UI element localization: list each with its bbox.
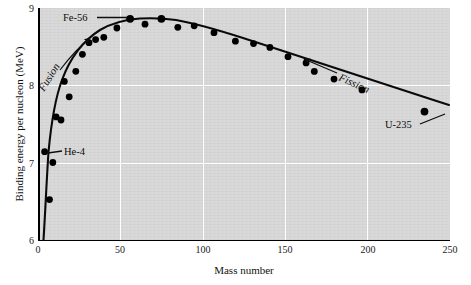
- y-tick-label: 8: [29, 80, 34, 91]
- gridline-vertical: [285, 8, 286, 240]
- y-tick-label: 7: [29, 158, 34, 169]
- gridline-vertical: [367, 8, 368, 240]
- x-tick-label: 200: [361, 244, 376, 255]
- x-tick-label: 50: [115, 244, 125, 255]
- y-tick-label: 9: [29, 3, 34, 14]
- gridline-horizontal: [38, 85, 450, 86]
- plot-area: [38, 8, 450, 240]
- x-axis-line: [38, 240, 450, 241]
- x-tick-label: 250: [443, 244, 458, 255]
- gridline-vertical: [120, 8, 121, 240]
- binding-energy-chart-figure: 9 8 7 6 0 50 100 150 200 250 Mass number…: [0, 0, 471, 285]
- y-tick-label: 6: [29, 235, 34, 246]
- y-axis-title: Binding energy per nucleon (MeV): [13, 0, 25, 249]
- y-axis-line: [38, 8, 40, 240]
- x-tick-label: 100: [196, 244, 211, 255]
- gridline-horizontal: [38, 163, 450, 164]
- gridline-vertical: [203, 8, 204, 240]
- x-tick-label: 0: [36, 244, 41, 255]
- x-axis-title: Mass number: [38, 264, 450, 276]
- x-tick-label: 150: [278, 244, 293, 255]
